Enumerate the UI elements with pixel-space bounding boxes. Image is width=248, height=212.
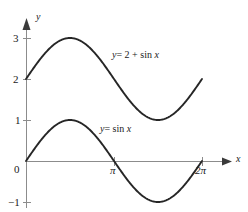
y-tick-label-2: 2 (13, 74, 19, 85)
x-tick-label-pi: π (110, 165, 116, 176)
figure-container: y x 3 2 1 0 −1 π 2π y= 2 + sin x y= sin … (0, 0, 248, 212)
curve-label-upper-equals: = 2 + (116, 49, 137, 60)
curve-label-upper: y= 2 + sin x (112, 50, 159, 60)
curve-label-upper-var: x (154, 49, 158, 60)
curve-label-upper-func: sin (140, 49, 152, 60)
y-tick-label-minus-1: −1 (8, 197, 20, 208)
y-tick-label-0: 0 (14, 164, 20, 175)
curve-label-lower-func: sin (113, 123, 125, 134)
x-axis-arrowhead (222, 158, 232, 166)
y-axis-label: y (36, 12, 40, 22)
y-tick-label-1: 1 (15, 115, 21, 126)
x-axis-label: x (236, 154, 240, 164)
curve-label-lower-var: x (127, 123, 131, 134)
plot-canvas (0, 0, 248, 212)
x-tick-label-2pi: 2π (195, 165, 206, 176)
y-axis-arrowhead (23, 18, 31, 30)
y-tick-label-3: 3 (13, 33, 19, 44)
curve-label-lower: y= sin x (100, 124, 131, 134)
curve-label-lower-equals: = (104, 123, 110, 134)
